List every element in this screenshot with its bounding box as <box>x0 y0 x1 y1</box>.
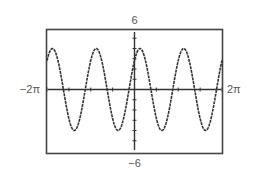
y-max-label: 6 <box>131 14 137 26</box>
x-min-label: −2π <box>20 83 41 95</box>
x-max-label: 2π <box>227 83 241 95</box>
y-min-label: −6 <box>128 157 141 169</box>
chart: 6 −6 −2π 2π <box>0 0 253 172</box>
